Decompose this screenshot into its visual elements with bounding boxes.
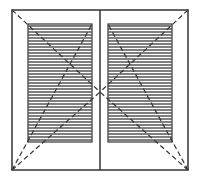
- window-diagram: [0, 0, 201, 183]
